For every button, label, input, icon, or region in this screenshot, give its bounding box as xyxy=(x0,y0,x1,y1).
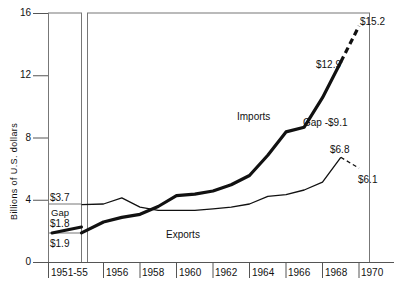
imports-final-value-label: $15.2 xyxy=(360,17,385,27)
y-tick-label-16: 16 xyxy=(18,8,31,18)
x-tick-label-1960: 1960 xyxy=(179,268,201,278)
chart-container: 16 12 8 4 0 Billions of U.S. dollars 195… xyxy=(0,0,394,295)
x-tick-label-1951-55: 1951-55 xyxy=(51,268,88,278)
series-label-exports: Exports xyxy=(166,230,200,240)
x-tick-label-1956: 1956 xyxy=(106,268,128,278)
y-tick-label-4: 4 xyxy=(18,195,31,205)
x-tick-label-1968: 1968 xyxy=(325,268,347,278)
series-label-imports: Imports xyxy=(237,112,270,122)
y-tick-label-8: 8 xyxy=(18,133,31,143)
plot-frame xyxy=(88,13,370,263)
exports-peak-value-label: $6.8 xyxy=(330,145,349,155)
x-tick-label-1966: 1966 xyxy=(288,268,310,278)
y-tick-label-12: 12 xyxy=(18,70,31,80)
imports-line xyxy=(82,62,341,233)
exports-line-projected xyxy=(341,157,359,168)
gap-final-label: Gap -$9.1 xyxy=(303,118,347,128)
imports-line-projected xyxy=(341,26,359,62)
x-tick-label-1964: 1964 xyxy=(252,268,274,278)
exports-line xyxy=(82,157,341,210)
x-tick-label-1970: 1970 xyxy=(361,268,383,278)
x-tick-label-1962: 1962 xyxy=(215,268,237,278)
imports-1969-value-label: $12.9 xyxy=(316,60,341,70)
x-tick-label-1958: 1958 xyxy=(142,268,164,278)
base-imports-value-label: $1.9 xyxy=(50,239,69,249)
y-tick-label-0: 0 xyxy=(18,257,31,267)
exports-final-value-label: $6.1 xyxy=(358,175,377,185)
y-axis-title: Billions of U.S. dollars xyxy=(10,123,19,220)
base-gap-value-label: $1.8 xyxy=(50,219,69,229)
base-exports-value-label: $3.7 xyxy=(50,193,69,203)
base-gap-text-label: Gap xyxy=(51,208,69,218)
